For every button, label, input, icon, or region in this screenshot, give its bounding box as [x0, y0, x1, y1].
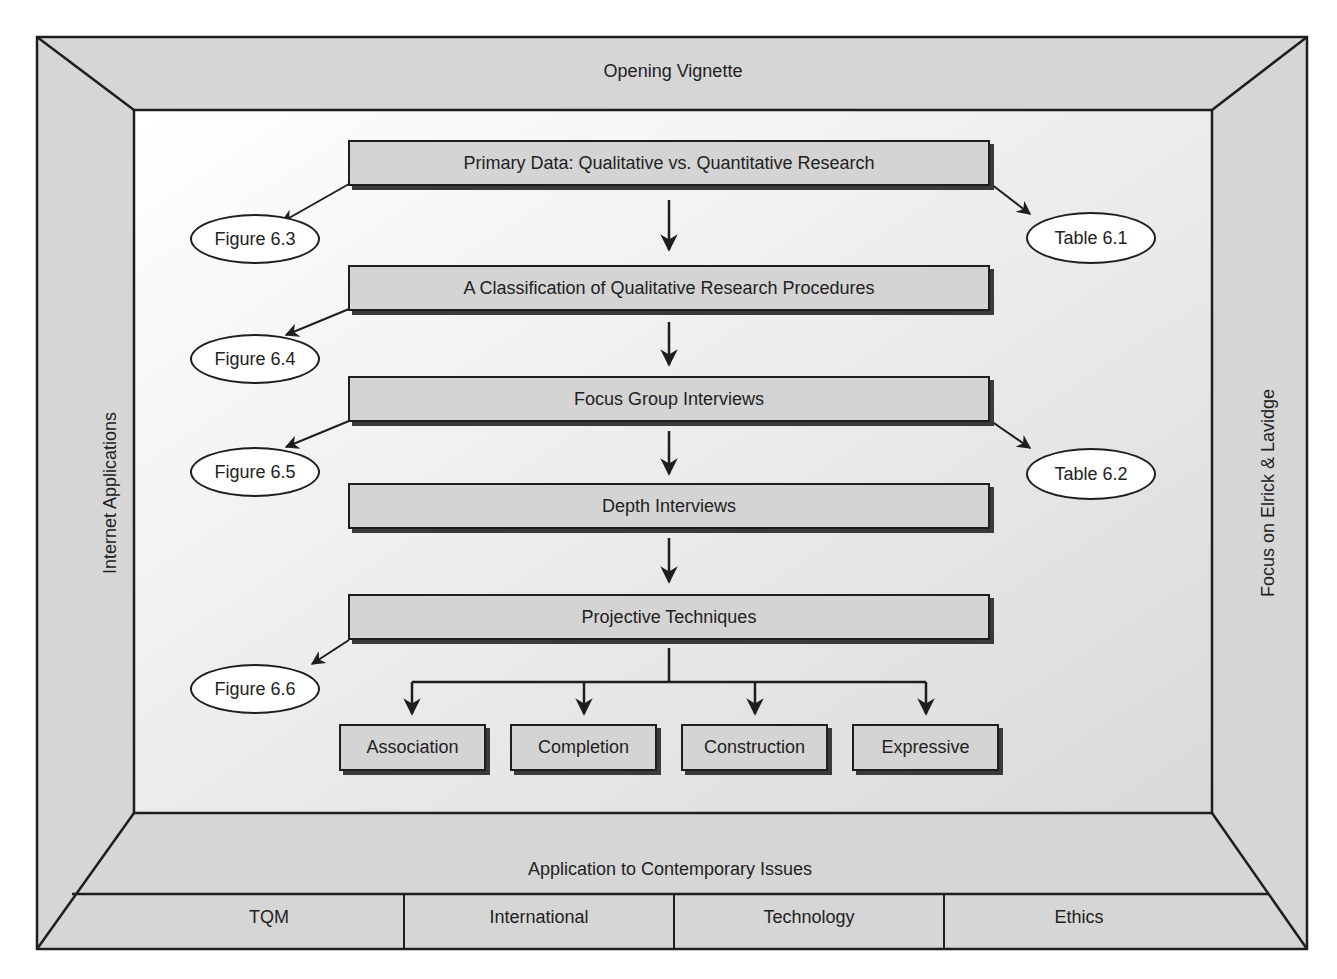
ref-table-6-1: Table 6.1: [1026, 212, 1156, 264]
bottom-cell-tqm: TQM: [134, 900, 404, 934]
ref-figure-6-4: Figure 6.4: [190, 334, 320, 384]
ref-figure-6-6: Figure 6.6: [190, 664, 320, 714]
diagram-stage: Opening Vignette Internet Applications F…: [0, 0, 1337, 979]
step-depth-interviews: Depth Interviews: [348, 483, 990, 529]
bottom-cell-international: International: [404, 900, 674, 934]
projective-expressive: Expressive: [852, 724, 999, 771]
projective-completion: Completion: [510, 724, 657, 771]
bottom-cell-ethics: Ethics: [944, 900, 1214, 934]
step-projective-techniques: Projective Techniques: [348, 594, 990, 640]
frame-left-label: Internet Applications: [97, 363, 123, 623]
frame-bottom-label: Application to Contemporary Issues: [100, 854, 1240, 884]
ref-figure-6-3: Figure 6.3: [190, 214, 320, 264]
ref-table-6-2: Table 6.2: [1026, 448, 1156, 500]
frame-right-label: Focus on Elrick & Lavidge: [1255, 363, 1281, 623]
step-primary-data: Primary Data: Qualitative vs. Quantitati…: [348, 140, 990, 186]
step-focus-group: Focus Group Interviews: [348, 376, 990, 422]
projective-construction: Construction: [681, 724, 828, 771]
frame-top-label: Opening Vignette: [134, 56, 1212, 86]
ref-figure-6-5: Figure 6.5: [190, 447, 320, 497]
projective-association: Association: [339, 724, 486, 771]
bottom-cell-technology: Technology: [674, 900, 944, 934]
step-classification: A Classification of Qualitative Research…: [348, 265, 990, 311]
